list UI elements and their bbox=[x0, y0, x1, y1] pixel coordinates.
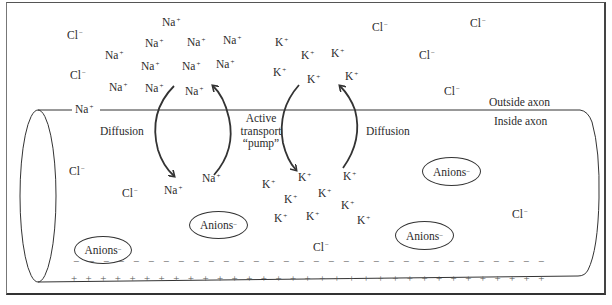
outside-ion-na: Na+ bbox=[223, 35, 241, 47]
charge-sign: + bbox=[246, 272, 252, 284]
charge-sign: + bbox=[436, 272, 442, 284]
outside-axon-label: Outside axon bbox=[489, 96, 550, 109]
ion-charge: + bbox=[199, 85, 203, 93]
ion-charge: + bbox=[159, 82, 163, 90]
na-diffusion-arrow bbox=[155, 86, 174, 176]
charge-sign: − bbox=[133, 255, 139, 267]
charge-sign: + bbox=[159, 272, 165, 284]
charge-sign: + bbox=[378, 272, 384, 284]
ion-symbol: K bbox=[307, 73, 315, 85]
ion-charge: + bbox=[284, 36, 288, 44]
charge-sign: − bbox=[358, 255, 364, 267]
charge-sign: − bbox=[88, 255, 94, 267]
ion-charge: + bbox=[159, 37, 163, 45]
anions-charge: − bbox=[233, 221, 237, 229]
ion-charge: + bbox=[340, 47, 344, 55]
ion-symbol: Na bbox=[164, 184, 177, 196]
ion-symbol: Na bbox=[109, 81, 122, 93]
charge-sign: − bbox=[163, 255, 169, 267]
ion-symbol: K bbox=[357, 214, 365, 226]
ion-symbol: K bbox=[262, 178, 270, 190]
charge-sign: + bbox=[363, 272, 369, 284]
charge-sign: + bbox=[71, 272, 77, 284]
charge-sign: + bbox=[144, 272, 150, 284]
active-transport-line3: “pump” bbox=[231, 137, 291, 150]
charge-sign: − bbox=[283, 255, 289, 267]
ion-charge: + bbox=[352, 170, 356, 178]
charge-sign: + bbox=[421, 272, 427, 284]
outside-ion-cl: Cl− bbox=[70, 70, 86, 82]
inside-ion-k: K+ bbox=[341, 200, 354, 212]
outside-ion-na: Na+ bbox=[145, 83, 163, 95]
active-transport-line2: transport bbox=[231, 125, 291, 138]
charge-sign: + bbox=[100, 272, 106, 284]
charge-sign: + bbox=[334, 272, 340, 284]
active-transport-label: Active transport “pump” bbox=[231, 112, 291, 150]
outside-ion-k: K+ bbox=[307, 74, 320, 86]
ion-symbol: K bbox=[343, 170, 351, 182]
ion-charge: + bbox=[155, 60, 159, 68]
ion-symbol: Cl bbox=[70, 69, 81, 81]
charge-sign: + bbox=[451, 272, 457, 284]
charge-sign: − bbox=[478, 255, 484, 267]
outside-ion-k: K+ bbox=[273, 67, 286, 79]
ion-symbol: K bbox=[341, 199, 349, 211]
charge-sign: + bbox=[465, 272, 471, 284]
charge-sign: + bbox=[173, 272, 179, 284]
ion-charge: − bbox=[524, 208, 528, 216]
inside-ion-cl: Cl− bbox=[512, 209, 528, 221]
ion-charge: − bbox=[325, 241, 329, 249]
charge-sign: + bbox=[129, 272, 135, 284]
outside-ion-na: Na+ bbox=[185, 86, 203, 98]
charge-sign: − bbox=[538, 255, 544, 267]
ion-symbol: Na bbox=[75, 103, 88, 115]
ion-charge: + bbox=[271, 178, 275, 186]
ion-charge: + bbox=[201, 36, 205, 44]
charge-sign: − bbox=[103, 255, 109, 267]
ion-charge: − bbox=[431, 49, 435, 57]
ion-symbol: Cl bbox=[313, 241, 324, 253]
ion-charge: + bbox=[293, 193, 297, 201]
ion-charge: + bbox=[310, 49, 314, 57]
ion-symbol: Cl bbox=[419, 49, 430, 61]
anions-charge: − bbox=[439, 232, 443, 240]
outside-ion-na: Na+ bbox=[182, 61, 200, 73]
charge-sign: − bbox=[253, 255, 259, 267]
charge-sign: + bbox=[290, 272, 296, 284]
charge-sign: − bbox=[493, 255, 499, 267]
ion-symbol: K bbox=[284, 193, 292, 205]
na-diffusion-label: Diffusion bbox=[100, 125, 144, 138]
ion-symbol: Na bbox=[223, 34, 236, 46]
charge-sign: − bbox=[523, 255, 529, 267]
charge-sign: + bbox=[480, 272, 486, 284]
outside-ion-cl: Cl− bbox=[444, 86, 460, 98]
ion-symbol: Na bbox=[145, 82, 158, 94]
charge-sign: − bbox=[388, 255, 394, 267]
charge-sign: + bbox=[232, 272, 238, 284]
ion-symbol: Cl bbox=[470, 17, 481, 29]
ion-symbol: K bbox=[306, 210, 314, 222]
anions-charge: − bbox=[466, 168, 470, 176]
charge-sign: + bbox=[305, 272, 311, 284]
ion-charge: + bbox=[176, 16, 180, 24]
inside-ion-k: K+ bbox=[357, 215, 370, 227]
inside-ion-na: Na+ bbox=[164, 185, 182, 197]
outside-ion-na: Na+ bbox=[187, 37, 205, 49]
outside-ion-cl: Cl− bbox=[372, 22, 388, 34]
na-pump-arrow bbox=[213, 86, 231, 175]
charge-sign: − bbox=[268, 255, 274, 267]
ion-charge: − bbox=[482, 17, 486, 25]
ion-charge: + bbox=[316, 73, 320, 81]
ion-symbol: K bbox=[273, 66, 281, 78]
ion-symbol: Na bbox=[105, 49, 118, 61]
charge-sign: + bbox=[261, 272, 267, 284]
charge-sign: − bbox=[298, 255, 304, 267]
outside-ion-na: Na+ bbox=[162, 17, 180, 29]
ion-symbol: Na bbox=[187, 36, 200, 48]
ion-charge: + bbox=[327, 187, 331, 195]
outside-ion-na: Na+ bbox=[105, 50, 123, 62]
outside-ion-k: K+ bbox=[331, 48, 344, 60]
ion-symbol: Cl bbox=[122, 187, 133, 199]
charge-sign: − bbox=[238, 255, 244, 267]
charge-sign: + bbox=[509, 272, 515, 284]
